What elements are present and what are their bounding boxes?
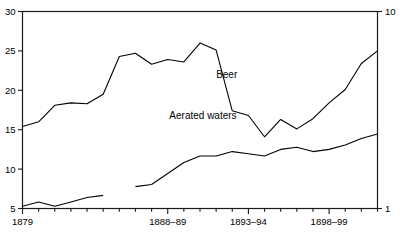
y-axis-left-tick-label: 30	[5, 6, 16, 17]
series-annotation-beer: Beer	[216, 69, 238, 80]
y-axis-left-tick-label: 25	[5, 45, 16, 56]
chart-container: 51015202530 110 18791888–891893–941898–9…	[0, 0, 405, 235]
y-axis-left-tick-label: 20	[5, 85, 16, 96]
x-axis-tick-label: 1893–94	[230, 216, 267, 227]
y-axis-left-tick-label: 5	[10, 203, 15, 214]
line-chart: 51015202530 110 18791888–891893–941898–9…	[0, 0, 405, 235]
y-axis-left-tick-label: 10	[5, 164, 16, 175]
series-annotation-aerated-waters: Aerated waters	[169, 110, 236, 121]
y-axis-right-tick-label: 10	[385, 6, 396, 17]
y-axis-left-tick-label: 15	[5, 124, 16, 135]
x-axis-tick-label: 1888–89	[149, 216, 186, 227]
x-axis-tick-label: 1898–99	[311, 216, 348, 227]
x-axis-tick-label: 1879	[12, 216, 33, 227]
y-axis-right-tick-label: 1	[385, 203, 390, 214]
